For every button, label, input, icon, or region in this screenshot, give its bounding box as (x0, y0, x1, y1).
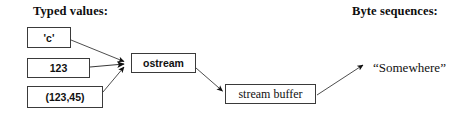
ostream-dataflow-diagram: Typed values: Byte sequences: 'c' 123 (1… (0, 0, 469, 113)
edge-int-to-ostream (90, 64, 124, 67)
typed-values-heading: Typed values: (33, 4, 108, 19)
node-stream-buffer: stream buffer (225, 84, 316, 104)
node-char-value: 'c' (27, 27, 71, 48)
node-somewhere-label: “Somewhere” (373, 60, 446, 76)
node-int-value-label: 123 (50, 62, 68, 74)
node-pair-value: (123,45) (27, 86, 103, 108)
node-char-value-label: 'c' (44, 32, 55, 44)
edge-ostream-to-streambuf (196, 68, 223, 91)
edge-streambuf-to-somewhere (317, 65, 363, 95)
edge-pair-to-ostream (103, 67, 124, 92)
node-pair-value-label: (123,45) (45, 91, 84, 103)
node-int-value: 123 (27, 58, 90, 78)
node-ostream: ostream (131, 53, 196, 73)
byte-sequences-heading: Byte sequences: (352, 4, 438, 19)
node-stream-buffer-label: stream buffer (238, 87, 302, 102)
node-ostream-label: ostream (143, 57, 184, 69)
